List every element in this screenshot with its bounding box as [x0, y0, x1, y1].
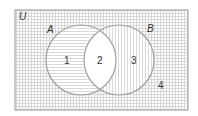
universe-label: U [19, 11, 27, 22]
set-b-label: B [147, 23, 154, 34]
region-2-label: 2 [97, 55, 103, 66]
set-a-label: A [46, 24, 54, 35]
region-1-label: 1 [64, 55, 70, 66]
venn-diagram: U A B 1 2 3 4 [0, 0, 198, 116]
region-3-label: 3 [131, 55, 137, 66]
region-4-label: 4 [158, 80, 164, 91]
